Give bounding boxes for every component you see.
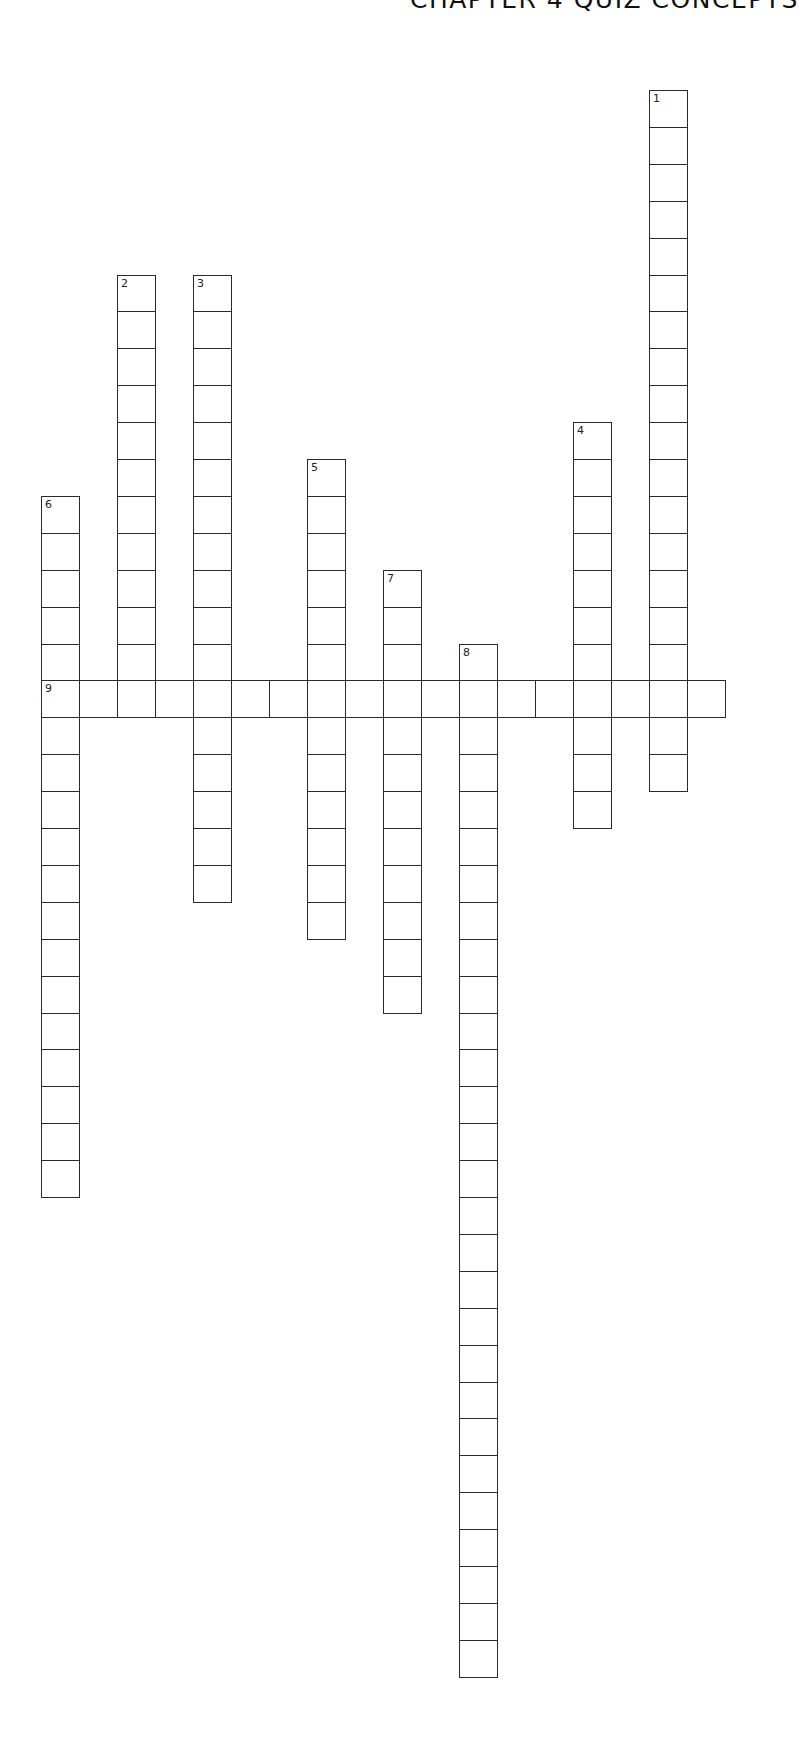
crossword-cell[interactable] [193, 828, 232, 866]
crossword-cell[interactable] [41, 1086, 80, 1124]
crossword-cell[interactable] [459, 1345, 498, 1383]
crossword-cell[interactable] [383, 865, 422, 903]
crossword-cell[interactable] [459, 828, 498, 866]
crossword-cell[interactable]: 7 [383, 570, 422, 608]
crossword-cell[interactable] [193, 422, 232, 460]
crossword-cell[interactable] [649, 754, 688, 792]
crossword-cell[interactable] [193, 865, 232, 903]
crossword-cell[interactable] [649, 607, 688, 645]
crossword-cell[interactable] [459, 1086, 498, 1124]
crossword-cell[interactable] [231, 680, 270, 718]
crossword-cell[interactable] [459, 1382, 498, 1419]
crossword-cell[interactable] [193, 754, 232, 792]
crossword-cell[interactable] [41, 828, 80, 866]
crossword-cell[interactable] [459, 1566, 498, 1604]
crossword-cell[interactable] [649, 275, 688, 312]
crossword-cell[interactable] [307, 570, 346, 608]
crossword-cell[interactable] [459, 680, 498, 718]
crossword-cell[interactable] [459, 1013, 498, 1050]
crossword-cell[interactable] [459, 1123, 498, 1161]
crossword-cell[interactable] [41, 607, 80, 645]
crossword-cell[interactable] [41, 902, 80, 940]
crossword-cell[interactable] [459, 791, 498, 829]
crossword-cell[interactable] [117, 496, 156, 534]
crossword-cell[interactable] [117, 533, 156, 571]
crossword-cell[interactable] [41, 976, 80, 1014]
crossword-cell[interactable] [193, 607, 232, 645]
crossword-cell[interactable] [41, 865, 80, 903]
crossword-cell[interactable] [307, 607, 346, 645]
crossword-cell[interactable] [117, 644, 156, 681]
crossword-cell[interactable] [193, 459, 232, 497]
crossword-cell[interactable] [193, 680, 232, 718]
crossword-cell[interactable] [573, 533, 612, 571]
crossword-cell[interactable] [193, 570, 232, 608]
crossword-cell[interactable] [383, 644, 422, 681]
crossword-cell[interactable] [649, 385, 688, 423]
crossword-cell[interactable] [649, 496, 688, 534]
crossword-cell[interactable] [383, 717, 422, 755]
crossword-cell[interactable] [573, 496, 612, 534]
crossword-cell[interactable] [459, 1529, 498, 1567]
crossword-cell[interactable] [535, 680, 574, 718]
crossword-cell[interactable] [383, 976, 422, 1014]
crossword-cell[interactable] [459, 1308, 498, 1346]
crossword-cell[interactable] [307, 717, 346, 755]
crossword-cell[interactable] [497, 680, 536, 718]
crossword-cell[interactable] [117, 459, 156, 497]
crossword-cell[interactable] [193, 348, 232, 386]
crossword-cell[interactable] [573, 644, 612, 681]
crossword-cell[interactable] [117, 607, 156, 645]
crossword-cell[interactable] [649, 533, 688, 571]
crossword-cell[interactable] [307, 754, 346, 792]
crossword-cell[interactable] [345, 680, 384, 718]
crossword-cell[interactable] [193, 496, 232, 534]
crossword-cell[interactable] [117, 311, 156, 349]
crossword-cell[interactable] [459, 865, 498, 903]
crossword-cell[interactable] [649, 570, 688, 608]
crossword-cell[interactable] [383, 828, 422, 866]
crossword-cell[interactable]: 2 [117, 275, 156, 312]
crossword-cell[interactable] [383, 939, 422, 977]
crossword-cell[interactable] [459, 1418, 498, 1456]
crossword-cell[interactable] [649, 238, 688, 276]
crossword-cell[interactable] [117, 348, 156, 386]
crossword-cell[interactable] [117, 422, 156, 460]
crossword-cell[interactable] [41, 570, 80, 608]
crossword-cell[interactable] [193, 385, 232, 423]
crossword-cell[interactable] [649, 422, 688, 460]
crossword-cell[interactable] [307, 496, 346, 534]
crossword-cell[interactable] [41, 644, 80, 681]
crossword-cell[interactable] [611, 680, 650, 718]
crossword-cell[interactable] [307, 533, 346, 571]
crossword-cell[interactable] [117, 570, 156, 608]
crossword-cell[interactable] [193, 717, 232, 755]
crossword-cell[interactable] [573, 607, 612, 645]
crossword-cell[interactable] [41, 717, 80, 755]
crossword-cell[interactable] [573, 570, 612, 608]
crossword-cell[interactable] [41, 1160, 80, 1198]
crossword-cell[interactable] [459, 1234, 498, 1272]
crossword-cell[interactable] [573, 459, 612, 497]
crossword-cell[interactable] [41, 1123, 80, 1161]
crossword-cell[interactable] [459, 1603, 498, 1641]
crossword-cell[interactable] [269, 680, 308, 718]
crossword-cell[interactable] [41, 939, 80, 977]
crossword-cell[interactable] [573, 791, 612, 829]
crossword-cell[interactable] [459, 1271, 498, 1309]
crossword-cell[interactable] [307, 828, 346, 866]
crossword-cell[interactable] [421, 680, 460, 718]
crossword-cell[interactable] [459, 1455, 498, 1493]
crossword-cell[interactable] [117, 385, 156, 423]
crossword-cell[interactable]: 5 [307, 459, 346, 497]
crossword-cell[interactable] [193, 791, 232, 829]
crossword-cell[interactable] [193, 311, 232, 349]
crossword-cell[interactable] [649, 311, 688, 349]
crossword-cell[interactable]: 4 [573, 422, 612, 460]
crossword-cell[interactable] [41, 791, 80, 829]
crossword-cell[interactable] [687, 680, 726, 718]
crossword-cell[interactable] [459, 754, 498, 792]
crossword-cell[interactable] [649, 459, 688, 497]
crossword-cell[interactable]: 3 [193, 275, 232, 312]
crossword-cell[interactable] [459, 1049, 498, 1087]
